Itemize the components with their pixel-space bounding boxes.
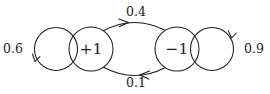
self-loop-minus-one-path: [191, 28, 234, 71]
transition-minus-to-plus-probability-label: 0.1: [126, 75, 146, 90]
transition-plus-to-minus-path: [104, 22, 166, 30]
state-transition-graph: +1 −1 0.6 0.9 0.4 0.1: [0, 0, 270, 94]
self-loop-plus-one-path: [35, 28, 78, 71]
state-minus-one-label: −1: [166, 40, 189, 58]
self-loop-minus-one-probability-label: 0.9: [244, 41, 264, 56]
transition-plus-to-minus-probability-label: 0.4: [126, 4, 146, 19]
transition-plus-to-minus-arrowhead: [119, 19, 129, 27]
self-loop-plus-one-probability-label: 0.6: [3, 41, 23, 56]
markov-chain-diagram: +1 −1 0.6 0.9 0.4 0.1: [0, 0, 270, 94]
state-plus-one-label: +1: [80, 40, 103, 58]
